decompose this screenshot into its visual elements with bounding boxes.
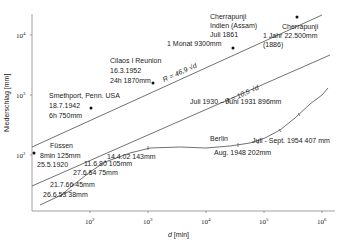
annotation-smethport: Smethport, Penn. USA 18.7.1942 6h 750mm	[49, 92, 120, 119]
svg-text:103: 103	[143, 217, 153, 226]
y-axis-label: Niederschlag [mm]	[3, 74, 11, 132]
x-tick-labels: 102 103 104 105 106	[85, 211, 327, 226]
svg-text:Cilaos I Reunion: Cilaos I Reunion	[110, 57, 161, 64]
svg-text:6h 750mm: 6h 750mm	[49, 112, 82, 119]
svg-text:Aug. 1948 202mm: Aug. 1948 202mm	[214, 149, 271, 157]
record-points	[33, 16, 299, 155]
svg-text:27.6.64 75mm: 27.6.64 75mm	[73, 169, 118, 176]
svg-text:Füssen: Füssen	[50, 142, 73, 149]
svg-text:102: 102	[16, 151, 26, 160]
annotation-jul-1930-jun-1931: Juli 1930 – Juni 1931 896mm	[190, 98, 282, 105]
svg-text:Juli 1861: Juli 1861	[210, 31, 238, 38]
y-tick-labels: 104 103 102	[16, 31, 32, 160]
svg-text:102: 102	[85, 217, 95, 226]
svg-text:1 Jahr 22.500mm: 1 Jahr 22.500mm	[263, 32, 318, 39]
annotation-fussen: Füssen 8min 125mm 25.5.1920	[37, 142, 81, 168]
svg-text:24h 1870mm: 24h 1870mm	[110, 77, 151, 84]
annotation-cherrapunji-1861: Cherrapunji Indien (Assam) Juli 1861 1 M…	[167, 13, 257, 47]
svg-text:1 Monat 9300mm: 1 Monat 9300mm	[167, 40, 222, 47]
svg-text:21.7.66 45mm: 21.7.66 45mm	[50, 181, 95, 188]
point-smethport	[90, 107, 93, 110]
point-cilaos	[152, 82, 155, 85]
svg-text:26.6.53 38mm: 26.6.53 38mm	[43, 191, 88, 198]
svg-text:Berlin: Berlin	[210, 135, 228, 142]
svg-text:Cherrapunji: Cherrapunji	[282, 23, 319, 31]
svg-text:Cherrapunji: Cherrapunji	[210, 13, 247, 21]
svg-text:104: 104	[201, 217, 211, 226]
annotation-berlin-short-durations: 14.4.02 143mm 11.6.80 105mm 27.6.64 75mm…	[43, 153, 156, 198]
point-fussen	[33, 152, 36, 155]
rainfall-chart: 104 103 102 Niederschlag [mm] 102 103 10…	[0, 0, 345, 252]
annotation-jul-sept-1954: Juli - Sept. 1954 407 mm	[252, 137, 330, 145]
svg-text:18.7.1942: 18.7.1942	[49, 102, 80, 109]
svg-text:16.3.1952: 16.3.1952	[110, 67, 141, 74]
svg-text:8min 125mm: 8min 125mm	[40, 152, 81, 159]
svg-text:(1886): (1886)	[263, 41, 283, 49]
svg-text:11.6.80 105mm: 11.6.80 105mm	[84, 160, 132, 167]
svg-text:Smethport, Penn. USA: Smethport, Penn. USA	[49, 92, 120, 100]
svg-text:103: 103	[16, 91, 26, 100]
annotation-cherrapunji-1886: Cherrapunji 1 Jahr 22.500mm (1886)	[263, 23, 319, 49]
annotation-cilaos: Cilaos I Reunion 16.3.1952 24h 1870mm	[110, 57, 161, 84]
x-axis-label: d [min]	[168, 231, 189, 239]
svg-text:105: 105	[259, 217, 269, 226]
point-cherrapunji-1886	[296, 16, 299, 19]
svg-text:14.4.02 143mm: 14.4.02 143mm	[107, 153, 156, 160]
svg-text:25.5.1920: 25.5.1920	[37, 161, 68, 168]
point-cherrapunji-1861	[232, 47, 235, 50]
svg-text:106: 106	[317, 217, 327, 226]
svg-text:104: 104	[16, 31, 26, 40]
svg-text:Indien (Assam): Indien (Assam)	[210, 22, 257, 30]
